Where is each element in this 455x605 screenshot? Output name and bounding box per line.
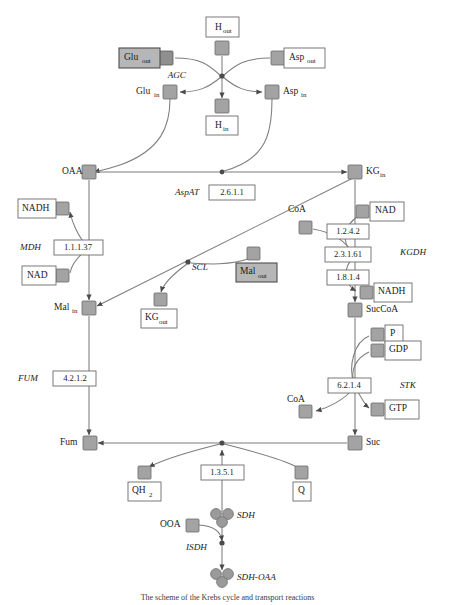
gdp-label: GDP <box>389 344 408 354</box>
q-label: Q <box>298 485 305 495</box>
ec-kgdh1-code: 1.2.4.2 <box>336 226 360 236</box>
node-qh2[interactable] <box>138 466 151 479</box>
sdh-oaa-complex-glyph[interactable] <box>211 569 234 588</box>
node-nadh-left[interactable] <box>56 202 69 215</box>
edge-agc-aspin <box>223 77 262 92</box>
metabolite-fum-label[interactable]: Fum <box>60 437 78 447</box>
metabolite-asp-in[interactable]: Asp in <box>283 86 307 97</box>
metabolite-glu-in[interactable]: Glu in <box>136 86 160 97</box>
metabolite-kg-in[interactable]: KG in <box>366 166 386 177</box>
node-ooa[interactable] <box>186 519 199 532</box>
edge-ooa-isdh <box>199 525 222 541</box>
ec-box-stk[interactable]: 6.2.1.4 <box>328 378 371 393</box>
metabolite-h-out[interactable]: H out <box>206 17 239 37</box>
qh2-sub: 2 <box>149 491 153 498</box>
ec-aspat-code: 2.6.1.1 <box>220 187 244 197</box>
glu-out-sub: out <box>142 57 151 64</box>
metabolite-coa-top-label[interactable]: CoA <box>288 204 306 214</box>
sdh-junction <box>219 440 224 445</box>
h-out-sub: out <box>223 27 232 34</box>
ec-box-kgdh-3[interactable]: 1.8.1.4 <box>327 270 369 285</box>
node-mal-out[interactable] <box>247 247 260 260</box>
isdh-junction <box>219 540 224 545</box>
metabolite-kg-out[interactable]: KG out <box>141 309 177 328</box>
metabolite-ooa-label[interactable]: OOA <box>160 519 181 529</box>
nad-right-label: NAD <box>375 205 396 215</box>
asp-in-label: Asp <box>283 86 299 96</box>
agc-junction <box>219 73 224 78</box>
h-in-box <box>206 116 238 135</box>
edge-gluin-aspat <box>94 99 170 172</box>
node-glu-out[interactable] <box>159 51 173 65</box>
qh2-label: QH <box>132 485 146 495</box>
metabolite-mal-out[interactable]: Mal out <box>236 263 277 282</box>
node-q[interactable] <box>295 466 308 479</box>
metabolite-nadh-left[interactable]: NADH <box>18 199 56 218</box>
ec-box-kgdh-1[interactable]: 1.2.4.2 <box>327 224 369 239</box>
node-p[interactable] <box>371 328 384 341</box>
metabolite-qh2[interactable]: QH 2 <box>128 482 161 501</box>
node-kg-out[interactable] <box>154 293 167 306</box>
enzyme-label-mdh[interactable]: MDH <box>19 242 42 252</box>
ec-box-kgdh-2[interactable]: 2.3.1.61 <box>325 247 371 262</box>
metabolite-asp-out[interactable]: Asp out <box>284 48 325 68</box>
asp-in-sub: in <box>301 91 307 98</box>
kg-out-label: KG <box>145 312 159 322</box>
nadh-left-label: NADH <box>22 203 50 213</box>
metabolite-coa-bottom-label[interactable]: CoA <box>287 394 305 404</box>
metabolite-gtp[interactable]: GTP <box>385 400 419 419</box>
node-coa-top[interactable] <box>299 221 312 234</box>
edge-aspout-agc <box>223 58 270 76</box>
metabolite-gdp[interactable]: GDP <box>385 341 421 360</box>
p-label: P <box>390 328 395 338</box>
metabolite-glu-out[interactable]: Glu out <box>119 48 160 68</box>
node-nad-right[interactable] <box>356 205 369 218</box>
metabolite-nad-left[interactable]: NAD <box>22 266 56 285</box>
enzyme-label-isdh[interactable]: ISDH <box>185 542 208 552</box>
ec-box-sdh[interactable]: 1.3.5.1 <box>201 465 244 480</box>
sdh-oaa-subunit-3 <box>217 577 228 588</box>
enzyme-label-sdh-oaa[interactable]: SDH-OAA <box>237 572 276 582</box>
kg-in-sub: in <box>380 171 386 178</box>
node-h-out[interactable] <box>215 41 229 55</box>
node-asp-out[interactable] <box>271 51 285 65</box>
enzyme-label-fum[interactable]: FUM <box>17 373 39 383</box>
ec-box-fum[interactable]: 4.2.1.2 <box>53 371 96 386</box>
enzyme-label-stk[interactable]: STK <box>400 380 417 390</box>
ec-fum-code: 4.2.1.2 <box>63 373 87 383</box>
metabolite-mal-in[interactable]: Mal in <box>54 302 78 313</box>
metabolite-suc-label[interactable]: Suc <box>366 437 380 447</box>
node-oaa[interactable] <box>82 165 96 179</box>
node-h-in[interactable] <box>215 99 229 113</box>
enzyme-label-sdh[interactable]: SDH <box>237 510 256 520</box>
ec-box-mdh[interactable]: 1.1.1.37 <box>54 240 103 255</box>
metabolite-nadh-right[interactable]: NADH <box>374 283 412 302</box>
node-nad-left[interactable] <box>56 269 69 282</box>
node-kg-in[interactable] <box>348 165 362 179</box>
node-glu-in[interactable] <box>163 85 177 99</box>
node-coa-bottom[interactable] <box>299 405 312 418</box>
node-suc[interactable] <box>348 436 362 450</box>
enzyme-label-kgdh[interactable]: KGDH <box>399 247 427 257</box>
node-fum[interactable] <box>83 436 97 450</box>
enzyme-label-aspat[interactable]: AspAT <box>174 187 200 197</box>
node-gdp[interactable] <box>371 344 384 357</box>
node-nadh-right[interactable] <box>360 286 373 299</box>
metabolite-q[interactable]: Q <box>293 482 311 501</box>
ec-box-aspat[interactable]: 2.6.1.1 <box>209 185 255 200</box>
node-mal-in[interactable] <box>82 301 96 315</box>
node-gtp[interactable] <box>371 403 384 416</box>
enzyme-label-agc[interactable]: AGC <box>167 70 187 80</box>
metabolite-nad-right[interactable]: NAD <box>370 202 404 221</box>
node-succoa[interactable] <box>348 303 362 317</box>
ec-kgdh2-code: 2.3.1.61 <box>334 249 362 259</box>
asp-out-sub: out <box>307 57 316 64</box>
node-asp-in[interactable] <box>265 85 279 99</box>
metabolite-succoa-label[interactable]: SucCoA <box>366 304 398 314</box>
ec-kgdh3-code: 1.8.1.4 <box>336 272 360 282</box>
metabolite-oaa-label[interactable]: OAA <box>62 166 83 176</box>
enzyme-label-scl[interactable]: SCL <box>192 262 208 272</box>
h-out-label: H <box>215 22 222 32</box>
metabolite-p[interactable]: P <box>385 325 403 343</box>
metabolite-h-in[interactable]: H in <box>206 116 238 135</box>
